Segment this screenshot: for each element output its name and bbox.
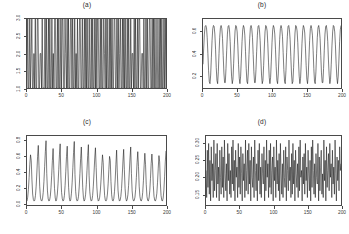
panel-c-ytick	[24, 188, 27, 189]
panel-a-xtick-label: 150	[122, 93, 142, 98]
panel-d-ytick	[203, 160, 206, 161]
panel-b-ytick	[200, 76, 203, 77]
panel-d-ytick	[203, 177, 206, 178]
panel-a-series-line	[27, 19, 166, 88]
panel-d-ytick	[203, 195, 206, 196]
panel-d-xtick-label: 150	[298, 210, 318, 215]
panel-b-plot-area	[202, 18, 342, 89]
panel-b-ytick-label: 0.2	[192, 68, 199, 84]
panel-b-xtick-label: 200	[332, 93, 349, 98]
panel-c-xtick	[167, 206, 168, 209]
panel-c-ytick-label: 0.8	[16, 132, 23, 148]
panel-b-ytick-label: 0.4	[192, 46, 199, 62]
panel-c-xtick-label: 150	[122, 210, 142, 215]
panel-c-xtick	[132, 206, 133, 209]
panel-d-xtick-label: 50	[229, 210, 249, 215]
panel-c-series-line	[27, 136, 166, 205]
panel-c-ytick	[24, 204, 27, 205]
panel-a-ytick-label: 2.0	[16, 46, 23, 62]
panel-c-ytick	[24, 156, 27, 157]
panel-d: (d) 0501001502000.150.200.250.30	[175, 117, 349, 234]
panel-c-xtick-label: 100	[87, 210, 107, 215]
panel-a-ytick	[24, 71, 27, 72]
panel-a-plot-area	[26, 18, 167, 89]
panel-a-ytick-label: 1.0	[16, 81, 23, 97]
panel-c-ytick-label: 0.0	[16, 196, 23, 212]
panel-b-ytick-label: 0.6	[192, 23, 199, 39]
panel-a-ytick-label: 2.5	[16, 28, 23, 44]
panel-b-ytick	[200, 31, 203, 32]
figure-grid: (a) 0501001502001.01.52.02.53.0 (b) 0501…	[0, 0, 349, 234]
panel-b-xtick-label: 100	[262, 93, 282, 98]
panel-c-title: (c)	[0, 118, 174, 126]
panel-d-ytick-label: 0.15	[195, 187, 202, 203]
panel-b-xtick-label: 0	[192, 93, 212, 98]
panel-b-xtick	[272, 89, 273, 92]
panel-a-xtick	[61, 89, 62, 92]
panel-c-ytick-label: 0.4	[16, 164, 23, 180]
panel-a-xtick	[167, 89, 168, 92]
panel-b-xtick-label: 150	[297, 93, 317, 98]
panel-d-ytick-label: 0.20	[195, 169, 202, 185]
panel-a-ytick	[24, 36, 27, 37]
panel-a-ytick	[24, 89, 27, 90]
panel-a-ytick	[24, 54, 27, 55]
panel-a-xtick-label: 100	[87, 93, 107, 98]
panel-d-xtick-label: 0	[195, 210, 215, 215]
panel-a: (a) 0501001502001.01.52.02.53.0	[0, 0, 174, 117]
panel-d-ytick-label: 0.25	[195, 152, 202, 168]
panel-d-ytick	[203, 143, 206, 144]
panel-d-xtick	[274, 206, 275, 209]
panel-c-ytick-label: 0.6	[16, 148, 23, 164]
panel-b-ytick	[200, 54, 203, 55]
panel-b-xtick-label: 50	[227, 93, 247, 98]
panel-c-xtick	[26, 206, 27, 209]
panel-d-title: (d)	[175, 118, 349, 126]
panel-d-xtick	[308, 206, 309, 209]
panel-d-xtick-label: 200	[332, 210, 349, 215]
panel-a-ytick	[24, 18, 27, 19]
panel-c-plot-area	[26, 135, 167, 206]
panel-d-xtick	[205, 206, 206, 209]
panel-c-xtick	[61, 206, 62, 209]
panel-d-series-line	[206, 136, 341, 205]
panel-b-series-line	[203, 19, 341, 88]
panel-a-ytick-label: 1.5	[16, 63, 23, 79]
panel-a-xtick-label: 200	[157, 93, 177, 98]
panel-b-xtick	[342, 89, 343, 92]
panel-c-xtick-label: 50	[51, 210, 71, 215]
panel-b: (b) 0501001502000.20.40.6	[175, 0, 349, 117]
panel-a-title: (a)	[0, 1, 174, 9]
panel-d-plot-area	[205, 135, 342, 206]
panel-b-xtick	[202, 89, 203, 92]
panel-b-xtick	[237, 89, 238, 92]
panel-b-title: (b)	[175, 1, 349, 9]
panel-a-ytick-label: 3.0	[16, 10, 23, 26]
panel-c-xtick	[97, 206, 98, 209]
panel-a-xtick	[26, 89, 27, 92]
panel-c-xtick-label: 200	[157, 210, 177, 215]
panel-d-xtick-label: 100	[264, 210, 284, 215]
panel-b-xtick	[307, 89, 308, 92]
panel-c-ytick-label: 0.2	[16, 180, 23, 196]
panel-a-xtick	[132, 89, 133, 92]
panel-a-xtick-label: 50	[51, 93, 71, 98]
panel-c: (c) 0501001502000.00.20.40.60.8	[0, 117, 174, 234]
panel-a-xtick	[97, 89, 98, 92]
panel-c-ytick	[24, 172, 27, 173]
panel-d-xtick	[239, 206, 240, 209]
panel-c-ytick	[24, 140, 27, 141]
panel-d-xtick	[342, 206, 343, 209]
panel-d-ytick-label: 0.30	[195, 135, 202, 151]
